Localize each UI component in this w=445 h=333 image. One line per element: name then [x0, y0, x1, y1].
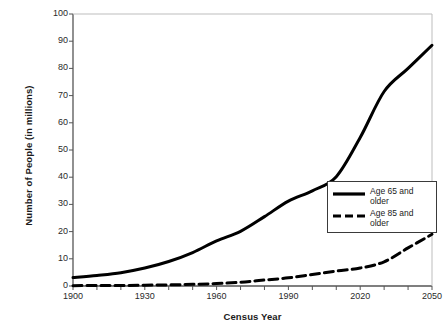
x-axis-tick-label: 1990 [268, 291, 308, 301]
legend-label-age-65-line2: older [370, 196, 389, 206]
x-axis-title: Census Year [73, 311, 432, 322]
y-axis-title: Number of People (in millions) [23, 36, 34, 276]
x-axis-tick-label: 2020 [340, 291, 380, 301]
legend-label-age-85-line2: older [370, 218, 389, 228]
series-line-age-65 [73, 45, 432, 277]
legend-label-age-85-line1: Age 85 and [370, 208, 413, 218]
legend-item-age-65: Age 65 and older [332, 186, 432, 206]
x-axis-tick-label: 1960 [197, 291, 237, 301]
y-axis-tick-labels: 0102030405060708090100 [40, 0, 68, 333]
x-axis-tick-label: 1930 [125, 291, 165, 301]
legend-swatch-solid [332, 187, 366, 201]
chart-legend: Age 65 and older Age 85 and older [327, 181, 437, 233]
y-axis-tick-label: 60 [42, 118, 68, 127]
y-axis-tick-label: 90 [42, 36, 68, 45]
legend-label-age-65-line1: Age 65 and [370, 186, 413, 196]
y-axis-tick-label: 10 [42, 254, 68, 263]
y-axis-tick-label: 50 [42, 145, 68, 154]
y-axis-tick-label: 0 [42, 281, 68, 290]
y-axis-tick-label: 70 [42, 91, 68, 100]
x-axis-tick-label: 1900 [53, 291, 93, 301]
y-axis-tick-label: 20 [42, 227, 68, 236]
legend-label-age-65: Age 65 and older [370, 186, 432, 206]
y-axis-tick-label: 30 [42, 199, 68, 208]
series-line-age-85 [73, 234, 432, 285]
y-axis-tick-label: 40 [42, 172, 68, 181]
legend-item-age-85: Age 85 and older [332, 208, 432, 228]
chart-figure: 0102030405060708090100 19001930196019902… [0, 0, 445, 333]
x-axis-tick-label: 2050 [412, 291, 445, 301]
legend-label-age-85: Age 85 and older [370, 208, 432, 228]
y-axis-tick-label: 80 [42, 63, 68, 72]
legend-swatch-dashed [332, 209, 366, 223]
y-axis-tick-label: 100 [42, 9, 68, 18]
